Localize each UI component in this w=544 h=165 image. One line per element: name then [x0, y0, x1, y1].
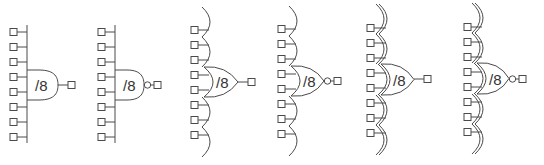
output-pin	[248, 79, 255, 86]
gate-or: /8	[191, 7, 255, 157]
input-pin-1	[367, 25, 374, 32]
inversion-bubble	[509, 76, 515, 82]
input-pin-8	[98, 134, 105, 141]
output-pin	[334, 78, 341, 85]
input-pin-6	[367, 100, 374, 107]
logic-gate-diagram: /8/8/8/8/8/8	[0, 0, 544, 165]
input-pin-4	[367, 70, 374, 77]
input-pin-6	[191, 102, 198, 109]
input-pin-7	[278, 116, 285, 123]
gate-width-label: /8	[303, 73, 316, 90]
input-pin-8	[278, 131, 285, 138]
input-pin-2	[10, 44, 17, 51]
output-pin	[154, 82, 161, 89]
input-pin-1	[10, 29, 17, 36]
gate-nand: /8	[98, 25, 161, 143]
output-pin	[519, 76, 526, 83]
input-pin-2	[278, 41, 285, 48]
input-pin-3	[10, 59, 17, 66]
input-pin-2	[191, 42, 198, 49]
input-pin-4	[278, 71, 285, 78]
input-pin-5	[464, 84, 471, 91]
input-pin-3	[98, 59, 105, 66]
input-pin-4	[98, 74, 105, 81]
input-pin-4	[10, 74, 17, 81]
gate-xor: /8	[367, 4, 431, 155]
input-pin-1	[278, 26, 285, 33]
gate-and: /8	[10, 25, 75, 143]
input-pin-6	[278, 101, 285, 108]
input-pin-8	[367, 130, 374, 137]
input-pin-4	[464, 69, 471, 76]
input-pin-7	[464, 114, 471, 121]
input-pin-5	[367, 85, 374, 92]
inversion-bubble	[144, 82, 150, 88]
input-pin-6	[464, 99, 471, 106]
input-pin-6	[10, 104, 17, 111]
input-pin-7	[367, 115, 374, 122]
gate-xnor: /8	[464, 3, 526, 154]
gate-width-label: /8	[393, 72, 406, 89]
input-pin-7	[191, 117, 198, 124]
input-pin-8	[191, 132, 198, 139]
input-pin-5	[10, 89, 17, 96]
input-pin-1	[464, 24, 471, 31]
input-pin-5	[98, 89, 105, 96]
input-pin-2	[464, 39, 471, 46]
input-pin-3	[464, 54, 471, 61]
input-pin-3	[367, 55, 374, 62]
input-pin-5	[278, 86, 285, 93]
input-curve	[379, 4, 390, 155]
input-pin-2	[98, 44, 105, 51]
gate-width-label: /8	[123, 77, 136, 94]
input-pin-4	[191, 72, 198, 79]
input-pin-1	[191, 27, 198, 34]
input-pin-7	[10, 119, 17, 126]
input-pin-7	[98, 119, 105, 126]
output-pin	[68, 82, 75, 89]
input-curve	[475, 3, 486, 154]
input-pin-5	[191, 87, 198, 94]
gate-width-label: /8	[216, 74, 229, 91]
gate-width-label: /8	[489, 71, 502, 88]
input-pin-3	[191, 57, 198, 64]
input-pin-1	[98, 29, 105, 36]
inversion-bubble	[324, 78, 330, 84]
input-pin-6	[98, 104, 105, 111]
input-pin-8	[464, 129, 471, 136]
output-pin	[424, 76, 431, 83]
gate-nor: /8	[278, 6, 341, 156]
input-pin-8	[10, 134, 17, 141]
input-pin-2	[367, 40, 374, 47]
gate-width-label: /8	[35, 77, 48, 94]
input-pin-3	[278, 56, 285, 63]
